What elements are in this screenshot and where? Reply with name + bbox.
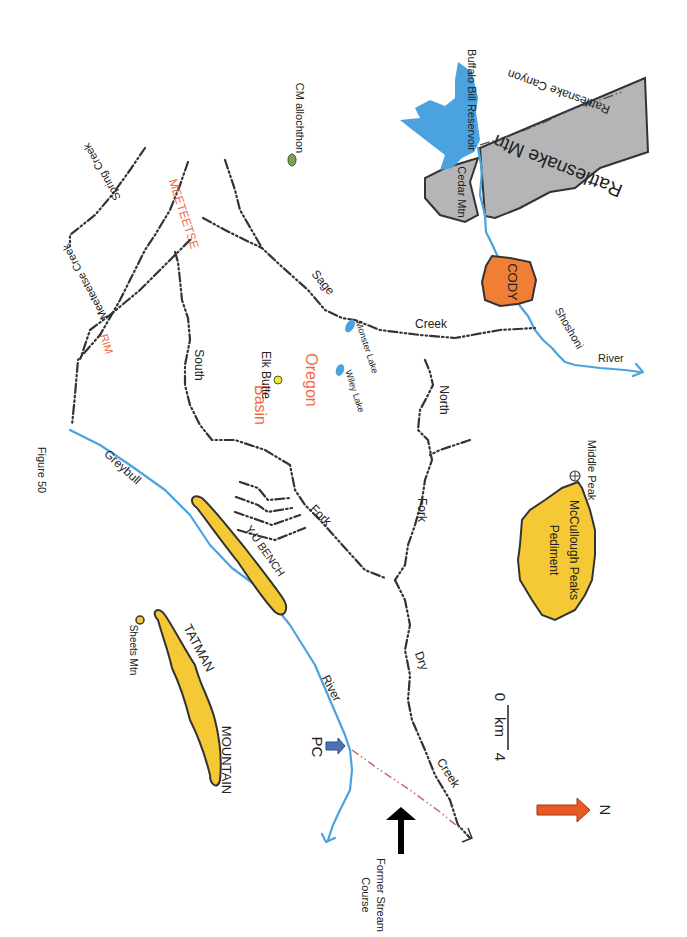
former-stream-label: Former Stream [375, 858, 387, 932]
mccullough-label: McCullough Peaks [567, 500, 581, 600]
north-fork-label: Fork [415, 498, 429, 523]
rim-label: RIM [98, 332, 116, 355]
shoshoni-label: Shoshoni [553, 305, 586, 351]
sheets-mtn [136, 616, 144, 624]
svg-text:MEETEETSE: MEETEETSE [166, 177, 202, 250]
greybull-river-label: River [319, 672, 345, 703]
north-arrow-icon [537, 798, 590, 822]
wiley-lake-label: Wiley Lake [343, 369, 366, 414]
greybull-label: Greybull [101, 447, 144, 487]
svg-text:Pediment: Pediment [547, 525, 561, 576]
figure-caption: Figure 50 [36, 447, 48, 493]
buffalo-bill-reservoir-label: Buffalo Bill Reservoir [466, 49, 478, 151]
svg-text:Spring Creek: Spring Creek [80, 141, 123, 203]
scale-start-label: 0 [492, 693, 509, 701]
svg-text:Buffalo Bill Reservoir: Buffalo Bill Reservoir [466, 49, 478, 151]
svg-text:Course: Course [360, 877, 372, 912]
pc-arrow [326, 738, 345, 754]
dry-creek-label: Creek [434, 756, 463, 791]
sheets-mtn-label: Sheets Mtn [128, 625, 139, 676]
sage-label: Sage [309, 267, 338, 298]
course-label: Course [360, 877, 372, 912]
north-fork-branch [430, 440, 470, 455]
south-fork [175, 252, 385, 578]
south-fork-tributary-3 [235, 512, 300, 525]
dry-label: Dry [412, 649, 432, 671]
svg-text:RIM: RIM [98, 332, 116, 355]
svg-text:McCullough Peaks: McCullough Peaks [567, 500, 581, 600]
svg-text:PC: PC [309, 737, 326, 758]
south-fork-label: Fork [307, 502, 335, 530]
spring-creek [70, 148, 145, 246]
shoshoni-river-label: River [598, 352, 624, 364]
svg-text:Sage: Sage [309, 267, 338, 298]
svg-text:Former Stream: Former Stream [375, 858, 387, 932]
svg-text:North: North [437, 385, 451, 414]
spring-creek-label: Spring Creek [80, 141, 123, 203]
rattlesnake-canyon-label: Rattlesnake Canyon [505, 67, 611, 117]
sage-creek-label: Creek [415, 317, 448, 331]
svg-text:Fork: Fork [415, 498, 429, 523]
north-fork [395, 360, 433, 580]
middle-peak-label: Middle Peak [586, 440, 598, 501]
svg-text:Sheets Mtn: Sheets Mtn [128, 625, 139, 676]
svg-text:Meeteetse Creek: Meeteetse Creek [59, 242, 109, 322]
svg-text:N: N [597, 805, 614, 816]
mountain-label: MOUNTAIN [219, 726, 234, 794]
svg-text:Shoshoni: Shoshoni [553, 305, 586, 351]
shoshoni-river-arrowhead [633, 364, 643, 376]
dry-creek [395, 580, 470, 838]
pediment-label: Pediment [547, 525, 561, 576]
scale-unit-label: km [492, 717, 509, 737]
meeteetse-creek-label: Meeteetse Creek [59, 242, 109, 322]
svg-text:0: 0 [492, 693, 509, 701]
cm-allochthon-label: CM allochthon [294, 83, 306, 153]
north-label: North [437, 385, 451, 414]
svg-text:Greybull: Greybull [101, 447, 144, 487]
meeteetse-rim-label: MEETEETSE [166, 177, 202, 250]
former-stream-arrow [386, 807, 416, 854]
svg-text:Cedar Mtn: Cedar Mtn [456, 166, 468, 217]
svg-text:km: km [492, 717, 509, 737]
svg-text:4: 4 [492, 753, 509, 761]
cody-label: CODY [505, 263, 520, 301]
svg-text:MOUNTAIN: MOUNTAIN [219, 726, 234, 794]
svg-text:CODY: CODY [505, 263, 520, 301]
scale-end-label: 4 [492, 753, 509, 761]
cedar-mtn-label: Cedar Mtn [456, 166, 468, 217]
svg-text:Elk Butte: Elk Butte [259, 351, 273, 399]
svg-text:CM allochthon: CM allochthon [294, 83, 306, 153]
south-fork-tributary-1 [240, 482, 290, 500]
cm-allochthon-marker [288, 154, 296, 166]
north-label: N [597, 805, 614, 816]
svg-text:Fork: Fork [307, 502, 335, 530]
svg-text:Wiley Lake: Wiley Lake [343, 369, 366, 414]
svg-text:South: South [192, 349, 206, 380]
svg-text:River: River [319, 672, 345, 703]
svg-text:Dry: Dry [412, 649, 432, 671]
svg-text:Middle Peak: Middle Peak [586, 440, 598, 501]
svg-text:Figure 50: Figure 50 [36, 447, 48, 493]
wiley-lake [334, 363, 346, 377]
oregon-label: Oregon [303, 353, 320, 406]
south-label: South [192, 349, 206, 380]
elk-butte-marker [274, 376, 282, 384]
svg-text:Creek: Creek [434, 756, 463, 791]
pc-label: PC [309, 737, 326, 758]
svg-text:Rattlesnake Canyon: Rattlesnake Canyon [505, 67, 611, 117]
svg-text:Oregon: Oregon [303, 353, 320, 406]
elk-butte-label: Elk Butte [259, 351, 273, 399]
